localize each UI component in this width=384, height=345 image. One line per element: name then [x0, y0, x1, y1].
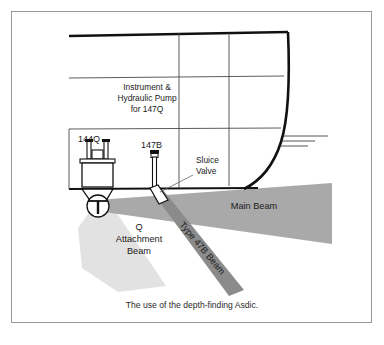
shaft-unit-label: 147B [141, 140, 162, 150]
figure-caption: The use of the depth-finding Asdic. [126, 300, 258, 310]
dome-unit-label: 144Q [78, 134, 100, 144]
instrument-label-line-1: Instrument & [123, 82, 171, 92]
instrument-label-line-2: Hydraulic Pump [117, 93, 176, 103]
upper-deck-line [69, 32, 288, 36]
type-47b-beam-label: Type 47B Beam [177, 220, 227, 277]
dome-post-cap-right [102, 139, 110, 142]
figure-root: Instrument & Hydraulic Pump for 147Q 144… [0, 0, 384, 345]
dome-collar [92, 150, 103, 159]
instrument-label-line-3: for 147Q [131, 104, 164, 114]
sluice-valve-leader-line [160, 175, 193, 192]
bow-stem-curve [244, 32, 289, 189]
q-attachment-beam-label-line-3: Beam [127, 246, 151, 256]
second-deck-line [69, 76, 284, 78]
sluice-valve-label-line-1: Sluice [196, 155, 219, 165]
compartment-top-line [69, 128, 281, 129]
asdic-diagram: Instrument & Hydraulic Pump for 147Q 144… [0, 0, 384, 345]
shaft-body [153, 157, 157, 189]
dome-body [82, 163, 113, 187]
main-beam-label: Main Beam [231, 201, 278, 211]
q-attachment-beam-label-line-2: Attachment [116, 234, 163, 244]
dome-post-right [104, 141, 108, 159]
q-attachment-beam-label-line-1: Q [135, 222, 142, 232]
shaft-cap [150, 150, 159, 154]
sluice-valve-label-line-2: Valve [196, 166, 217, 176]
